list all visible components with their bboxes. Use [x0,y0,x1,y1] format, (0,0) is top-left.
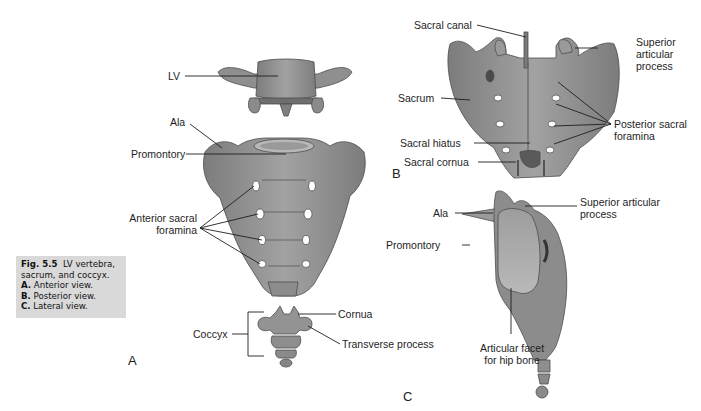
label-sacral-cornua: Sacral cornua [404,156,469,168]
caption-text: Posterior view. [34,291,96,301]
label-line: process [580,208,660,220]
caption-key: A. [21,280,31,290]
label-line: process [636,60,676,72]
label-sacral-hiatus: Sacral hiatus [400,137,461,149]
lv-vertebra [218,59,352,116]
label-line: for hip bone [474,354,550,366]
sacrum-posterior [448,32,619,178]
label-anterior-sacral-foramina-line2: foramina [112,224,197,236]
panel-letter-b: B [392,166,401,181]
label-line: Superior articular [580,196,660,208]
panel-letter-c: C [403,389,412,404]
label-line: Posterior sacral [614,118,687,130]
caption-item-c: C. Lateral view. [21,301,126,312]
label-transverse-process: Transverse process [342,338,434,350]
figure-title-line2: sacrum, and coccyx. [21,270,126,281]
figure-caption: Fig. 5.5 LV vertebra, sacrum, and coccyx… [16,256,126,318]
label-sacrum: Sacrum [398,92,434,104]
sacrum-lateral [462,191,567,398]
label-posterior-sacral-foramina: Posterior sacral foramina [614,118,687,142]
label-articular-facet: Articular facet for hip bone [474,342,550,366]
figure-title-line1: LV vertebra, [63,259,115,269]
label-line: Articular facet [474,342,550,354]
label-line: Superior [636,36,676,48]
label-line: foramina [614,130,687,142]
figure-number: Fig. 5.5 [21,259,57,269]
label-anterior-sacral-foramina-line1: Anterior sacral [112,212,197,224]
label-promontory-lateral: Promontory [386,239,440,251]
panel-letter-a: A [128,353,137,368]
sacrum-anterior [203,138,365,296]
label-anterior-sacral-foramina: Anterior sacral foramina [112,212,197,236]
label-ala-lateral: Ala [433,207,448,219]
caption-key: C. [21,301,31,311]
label-coccyx: Coccyx [193,328,227,340]
label-promontory-anterior: Promontory [131,148,185,160]
caption-text: Anterior view. [34,280,93,290]
label-superior-articular-process-lateral: Superior articular process [580,196,660,220]
caption-item-a: A. Anterior view. [21,280,126,291]
caption-key: B. [21,291,31,301]
caption-item-b: B. Posterior view. [21,291,126,302]
coccyx-anterior [258,306,312,367]
label-ala-anterior: Ala [170,116,185,128]
caption-text: Lateral view. [33,301,87,311]
figure-canvas: LV Ala Promontory Anterior sacral forami… [0,0,701,411]
label-cornua: Cornua [338,308,372,320]
label-sacral-canal: Sacral canal [414,19,472,31]
label-lv: LV [168,70,180,82]
label-superior-articular-process-posterior: Superior articular process [636,36,676,72]
label-line: articular [636,48,676,60]
